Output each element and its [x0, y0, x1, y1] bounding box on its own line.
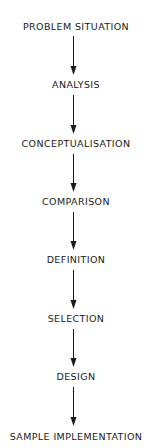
arrow-down-icon	[71, 36, 77, 75]
arrow-down-icon	[71, 387, 77, 426]
arrow-down-icon	[71, 154, 77, 192]
arrow-down-icon	[71, 212, 77, 250]
flow-arrows	[0, 0, 152, 448]
arrow-down-icon	[71, 329, 77, 367]
arrow-down-icon	[71, 270, 77, 309]
arrow-down-icon	[71, 95, 77, 134]
